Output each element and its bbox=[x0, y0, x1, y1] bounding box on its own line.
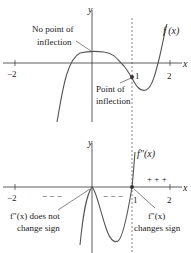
no-inflection-label-line2: inflection bbox=[37, 37, 72, 47]
no-sign-change-label-line1: f″(x) does not bbox=[10, 211, 60, 221]
top-x-label: x bbox=[182, 58, 188, 69]
bottom-tick-label-neg2: −2 bbox=[7, 193, 17, 203]
bottom-x-label: x bbox=[182, 182, 188, 193]
top-tick-label-1: 1 bbox=[135, 71, 140, 81]
no-sign-change-label-line2: change sign bbox=[17, 223, 60, 233]
bottom-y-label: y bbox=[87, 137, 93, 148]
sign-right: + + + bbox=[147, 174, 167, 184]
sign-change-label-line1: f″(x) bbox=[148, 211, 165, 221]
top-graph: y x −2 1 2 f (x) No point of inflection … bbox=[3, 4, 188, 122]
f-curve bbox=[57, 24, 167, 122]
f-curve-label: f (x) bbox=[163, 25, 180, 37]
inflection-pointer bbox=[120, 78, 131, 83]
sign-left: − − − bbox=[42, 191, 62, 201]
sign-middle: − − − bbox=[103, 191, 123, 201]
top-tick-label-neg2: −2 bbox=[7, 69, 17, 79]
bottom-graph: y x −2 1 2 f″(x) − − − − − − + + + f″(x)… bbox=[3, 137, 188, 253]
inflection-diagram: y x −2 1 2 f (x) No point of inflection … bbox=[0, 0, 191, 253]
no-inflection-pointer bbox=[76, 41, 91, 51]
inflection-label-line2: inflection bbox=[96, 96, 131, 106]
top-tick-label-2: 2 bbox=[167, 71, 172, 81]
bottom-tick-label-1: 1 bbox=[133, 195, 138, 205]
sign-change-label-line2: changes sign bbox=[134, 223, 181, 233]
sign-change-point bbox=[130, 185, 134, 189]
top-y-label: y bbox=[87, 4, 93, 15]
no-inflection-label-line1: No point of bbox=[32, 24, 74, 34]
f-double-prime-label: f″(x) bbox=[137, 148, 156, 160]
bottom-tick-label-2: 2 bbox=[167, 195, 172, 205]
inflection-label-line1: Point of bbox=[96, 84, 125, 94]
